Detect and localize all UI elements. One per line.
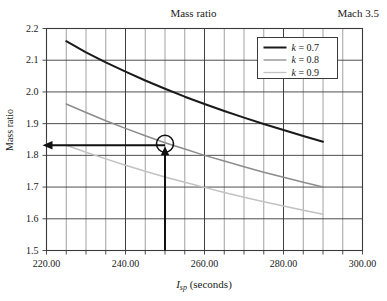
plot-area — [0, 0, 387, 301]
legend-label-1: k = 0.7 — [292, 43, 320, 53]
legend-value-2: = 0.8 — [296, 54, 319, 65]
legend-label-2: k = 0.8 — [292, 55, 320, 65]
legend-value-1: = 0.7 — [296, 42, 319, 53]
horizontal-arrow-head — [43, 141, 53, 149]
legend-value-3: = 0.9 — [296, 67, 319, 78]
chart-annotations — [43, 135, 174, 250]
vertical-arrow-head — [161, 146, 169, 155]
legend-label-3: k = 0.9 — [292, 68, 320, 78]
chart-figure: Mass ratio Mach 3.5 Mass ratio Isp (seco… — [0, 0, 387, 301]
